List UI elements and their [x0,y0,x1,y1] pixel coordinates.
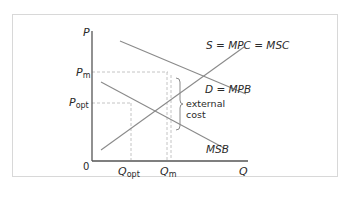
demand-curve-label: D = MPB [205,83,251,95]
guide-lines [92,72,171,160]
qopt-label: Qopt [118,165,140,179]
pm-label: Pm [76,66,91,80]
origin-label: 0 [83,161,89,172]
external-cost-label-line2: cost [186,109,206,120]
externality-diagram: P Q 0 Pm Popt Qopt Qm S = MPC = MSC D = … [0,0,352,198]
external-cost-label-line1: external [186,98,225,109]
popt-label: Popt [69,96,89,110]
supply-curve-label: S = MPC = MSC [206,39,290,51]
y-axis-label: P [83,26,90,39]
x-axis-label: Q [239,165,248,178]
qm-label: Qm [160,165,177,179]
msb-curve-label: MSB [206,143,229,155]
